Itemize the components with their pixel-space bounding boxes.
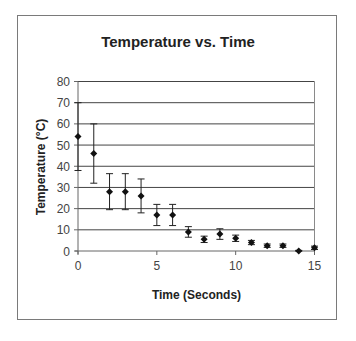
x-tick-label: 5 bbox=[153, 259, 160, 273]
y-tick-label: 70 bbox=[57, 96, 71, 110]
diamond-marker bbox=[106, 188, 113, 195]
diamond-marker bbox=[216, 231, 223, 238]
x-tick-label: 15 bbox=[308, 259, 322, 273]
diamond-marker bbox=[264, 242, 271, 249]
axes bbox=[75, 82, 315, 255]
x-tick-label: 0 bbox=[75, 259, 82, 273]
diamond-marker bbox=[153, 211, 160, 218]
diamond-marker bbox=[169, 211, 176, 218]
y-tick-label: 50 bbox=[57, 139, 71, 153]
diamond-marker bbox=[138, 192, 145, 199]
error-bars bbox=[75, 103, 319, 251]
x-axis-ticks: 051015 bbox=[75, 251, 322, 273]
y-tick-label: 20 bbox=[57, 202, 71, 216]
diamond-marker bbox=[279, 242, 286, 249]
diamond-marker bbox=[90, 150, 97, 157]
y-tick-label: 60 bbox=[57, 117, 71, 131]
gridlines bbox=[78, 82, 315, 230]
diamond-marker bbox=[201, 236, 208, 243]
y-tick-label: 10 bbox=[57, 223, 71, 237]
y-tick-label: 80 bbox=[57, 75, 71, 89]
diamond-marker bbox=[295, 248, 302, 255]
diamond-marker bbox=[232, 235, 239, 242]
x-tick-label: 10 bbox=[229, 259, 243, 273]
y-tick-label: 30 bbox=[57, 181, 71, 195]
y-tick-label: 0 bbox=[63, 245, 70, 259]
y-tick-label: 40 bbox=[57, 160, 71, 174]
diamond-marker bbox=[122, 188, 129, 195]
plot-area: 01020304050607080 051015 bbox=[0, 0, 356, 341]
diamond-marker bbox=[311, 244, 318, 251]
diamond-marker bbox=[75, 133, 82, 140]
data-markers bbox=[75, 133, 319, 254]
